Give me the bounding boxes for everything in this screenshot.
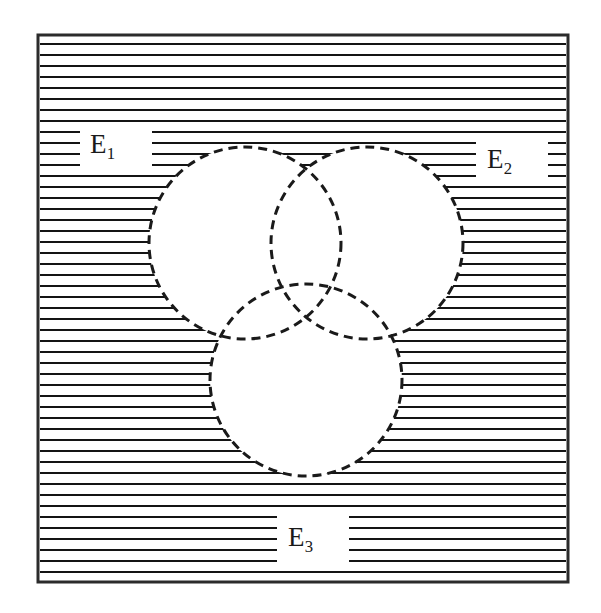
label-e1-base: E — [90, 129, 107, 159]
label-e3-base: E — [288, 522, 305, 552]
label-e1-subscript: 1 — [107, 144, 115, 163]
label-e1: E1 — [90, 131, 115, 158]
label-e2: E2 — [487, 146, 512, 173]
label-e2-subscript: 2 — [504, 159, 512, 178]
label-e2-base: E — [487, 144, 504, 174]
venn-diagram-figure: E1 E2 E3 — [0, 0, 601, 613]
label-e3-subscript: 3 — [305, 537, 313, 556]
label-e3: E3 — [288, 524, 313, 551]
